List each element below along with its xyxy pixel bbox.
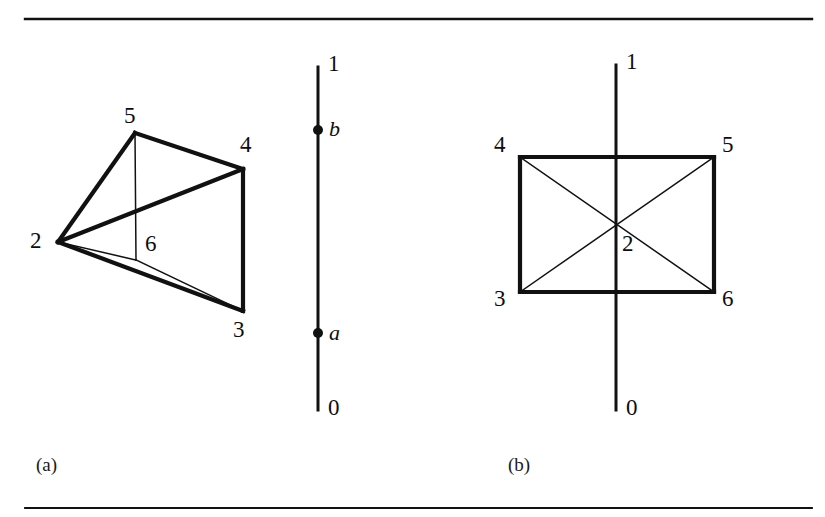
panel-a-node-label-2: 2: [30, 229, 42, 252]
caption-b: (b): [508, 455, 530, 474]
figure-drawing-canvas: [0, 0, 825, 517]
panel-a-edge-6-3: [136, 260, 243, 311]
caption-a: (a): [36, 455, 57, 474]
axis-a-bottom-label-0: 0: [328, 396, 340, 419]
panel-a-edge-5-4: [135, 133, 243, 169]
panel-a-node-label-6: 6: [145, 232, 157, 255]
axis-a-line-and-points: [313, 67, 323, 410]
axis-a-point-label-a: a: [329, 322, 340, 344]
panel-a-node-label-3: 3: [233, 318, 245, 341]
panel-b-node-label-3: 3: [494, 287, 506, 310]
panel-a-node-label-5: 5: [124, 104, 136, 127]
panel-b-axis-top-label-1: 1: [626, 50, 638, 73]
axis-a-point-a: [313, 328, 323, 338]
panel-a-edge-5-6: [135, 133, 136, 260]
axis-a-point-label-b: b: [329, 118, 340, 140]
figure-container: 5 4 2 6 3 1 0 b a 4 5 3 6 2 1 0 (a) (b): [0, 0, 825, 517]
axis-a-point-b: [313, 125, 323, 135]
panel-b-node-label-4: 4: [494, 133, 506, 156]
axis-a-top-label-1: 1: [328, 52, 340, 75]
panel-b-node-label-2: 2: [622, 232, 634, 255]
panel-b-node-label-5: 5: [722, 133, 734, 156]
panel-a-node-label-4: 4: [240, 133, 252, 156]
panel-b-axis-bottom-label-0: 0: [626, 396, 638, 419]
panel-b-node-label-6: 6: [722, 287, 734, 310]
panel-a-edges: [58, 133, 243, 311]
